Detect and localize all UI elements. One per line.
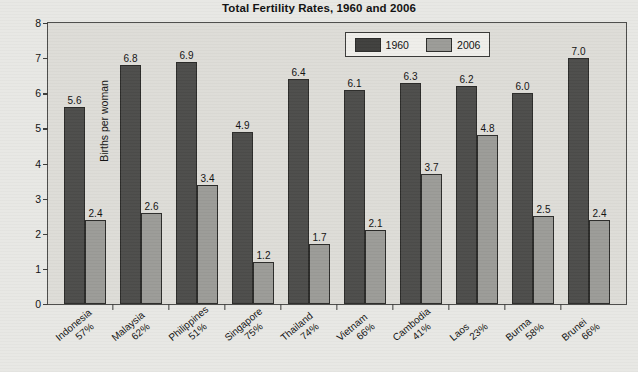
light-swatch-icon xyxy=(426,38,452,52)
x-label-thailand: Thailand74% xyxy=(278,310,322,352)
x-label-burma: Burma58% xyxy=(503,312,545,353)
bar-thailand-2006[interactable]: 1.7 xyxy=(309,244,330,304)
x-label-cell: Indonesia57% xyxy=(56,305,112,372)
bar-laos-1960[interactable]: 6.2 xyxy=(456,86,477,304)
bar-philippines-1960[interactable]: 6.9 xyxy=(176,62,197,304)
bar-singapore-1960[interactable]: 4.9 xyxy=(232,132,253,304)
bar-malaysia-1960[interactable]: 6.8 xyxy=(120,65,141,304)
x-label-cell: Malaysia62% xyxy=(112,305,168,372)
bar-group: 6.93.4 xyxy=(169,23,225,304)
bar-value-label: 6.2 xyxy=(460,74,474,85)
bar-group: 7.02.4 xyxy=(561,23,617,304)
bar-series-container: 5.62.46.82.66.93.44.91.26.41.76.12.16.33… xyxy=(48,23,626,304)
bar-cambodia-2006[interactable]: 3.7 xyxy=(421,174,442,304)
x-label-malaysia: Malaysia62% xyxy=(110,309,155,352)
legend-item-2006: 2006 xyxy=(426,38,480,52)
x-label-cell: Cambodia41% xyxy=(393,305,449,372)
x-label-cell: Philippines51% xyxy=(168,305,224,372)
bar-value-label: 3.7 xyxy=(425,162,439,173)
bar-group: 6.12.1 xyxy=(337,23,393,304)
bar-group: 4.91.2 xyxy=(225,23,281,304)
bar-brunei-1960[interactable]: 7.0 xyxy=(568,58,589,304)
y-tick-8: 8 xyxy=(35,17,48,29)
bar-cambodia-1960[interactable]: 6.3 xyxy=(400,83,421,304)
bar-value-label: 4.8 xyxy=(481,123,495,134)
x-label-cambodia: Cambodia41% xyxy=(391,305,441,352)
bar-burma-1960[interactable]: 6.0 xyxy=(512,93,533,304)
y-tick-5: 5 xyxy=(35,122,48,134)
y-tick-1: 1 xyxy=(35,263,48,275)
chart-legend: 1960 2006 xyxy=(345,32,490,57)
x-label-cell: Laos23% xyxy=(449,305,505,372)
legend-label-2006: 2006 xyxy=(457,39,480,51)
bar-indonesia-2006[interactable]: 2.4 xyxy=(85,220,106,304)
y-tick-4: 4 xyxy=(35,158,48,170)
bar-group: 6.82.6 xyxy=(113,23,169,304)
bar-burma-2006[interactable]: 2.5 xyxy=(533,216,554,304)
legend-item-1960: 1960 xyxy=(355,38,409,52)
x-label-philippines: Philippines51% xyxy=(166,304,218,353)
bar-group: 6.02.5 xyxy=(505,23,561,304)
bar-value-label: 2.4 xyxy=(593,208,607,219)
x-label-cell: Thailand74% xyxy=(281,305,337,372)
x-label-cell: Vietnam66% xyxy=(337,305,393,372)
bar-value-label: 1.7 xyxy=(313,232,327,243)
bar-vietnam-1960[interactable]: 6.1 xyxy=(344,90,365,304)
dark-swatch-icon xyxy=(355,38,381,52)
chart-title: Total Fertility Rates, 1960 and 2006 xyxy=(0,2,638,14)
bar-value-label: 5.6 xyxy=(68,95,82,106)
bar-group: 6.41.7 xyxy=(281,23,337,304)
bar-value-label: 1.2 xyxy=(257,250,271,261)
bar-group: 6.24.8 xyxy=(449,23,505,304)
x-axis-labels: Indonesia57%Malaysia62%Philippines51%Sin… xyxy=(47,305,627,372)
plot-area: Births per woman 012345678 5.62.46.82.66… xyxy=(47,22,627,305)
bar-value-label: 2.5 xyxy=(537,204,551,215)
x-label-singapore: Singapore75% xyxy=(222,305,272,352)
y-tick-3: 3 xyxy=(35,193,48,205)
x-label-indonesia: Indonesia57% xyxy=(53,307,101,352)
bar-value-label: 6.8 xyxy=(124,53,138,64)
y-tick-6: 6 xyxy=(35,87,48,99)
bar-value-label: 7.0 xyxy=(572,46,586,57)
bar-singapore-2006[interactable]: 1.2 xyxy=(253,262,274,304)
x-label-cell: Singapore75% xyxy=(225,305,281,372)
bar-value-label: 4.9 xyxy=(236,120,250,131)
bar-philippines-2006[interactable]: 3.4 xyxy=(197,185,218,304)
bar-value-label: 6.4 xyxy=(292,67,306,78)
bar-value-label: 6.1 xyxy=(348,78,362,89)
x-label-laos: Laos23% xyxy=(447,312,489,353)
legend-label-1960: 1960 xyxy=(386,39,409,51)
bar-value-label: 3.4 xyxy=(201,173,215,184)
y-tick-7: 7 xyxy=(35,52,48,64)
x-label-cell: Burma58% xyxy=(506,305,562,372)
x-label-brunei: Brunei66% xyxy=(559,312,601,353)
bar-value-label: 2.6 xyxy=(145,201,159,212)
x-label-vietnam: Vietnam66% xyxy=(334,311,377,352)
bar-brunei-2006[interactable]: 2.4 xyxy=(589,220,610,304)
bar-value-label: 2.4 xyxy=(89,208,103,219)
bar-value-label: 6.3 xyxy=(404,71,418,82)
bar-indonesia-1960[interactable]: 5.6 xyxy=(64,107,85,304)
y-tick-2: 2 xyxy=(35,228,48,240)
bar-group: 6.33.7 xyxy=(393,23,449,304)
bar-malaysia-2006[interactable]: 2.6 xyxy=(141,213,162,304)
bar-group: 5.62.4 xyxy=(57,23,113,304)
bar-value-label: 6.0 xyxy=(516,81,530,92)
bar-thailand-1960[interactable]: 6.4 xyxy=(288,79,309,304)
bar-value-label: 2.1 xyxy=(369,218,383,229)
bar-laos-2006[interactable]: 4.8 xyxy=(477,135,498,304)
x-label-cell: Brunei66% xyxy=(562,305,618,372)
bar-vietnam-2006[interactable]: 2.1 xyxy=(365,230,386,304)
bar-value-label: 6.9 xyxy=(180,50,194,61)
